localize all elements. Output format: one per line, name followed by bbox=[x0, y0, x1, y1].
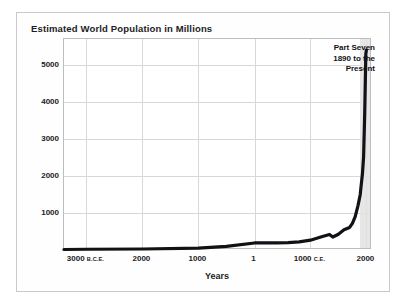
x-axis-tick-label: 1000 C.E. bbox=[294, 254, 325, 263]
y-axis-tick-label: 4000 bbox=[41, 96, 59, 105]
callout-line-1: Part Seven bbox=[283, 43, 375, 54]
x-axis-tick-label: 2000 bbox=[356, 254, 374, 263]
y-axis-tick-label: 2000 bbox=[41, 171, 59, 180]
y-axis-tick-label: 5000 bbox=[41, 59, 59, 68]
x-axis-tick-label: 1000 bbox=[188, 254, 206, 263]
chart-title: Estimated World Population in Millions bbox=[31, 23, 212, 34]
x-axis-title: Years bbox=[63, 271, 371, 281]
y-axis-tick-label: 1000 bbox=[41, 208, 59, 217]
y-axis-tick-labels: 10002000300040005000 bbox=[17, 38, 59, 249]
x-axis-tick-labels: 3000 B.C.E.2000100011000 C.E.2000 bbox=[63, 254, 371, 268]
callout-line-3: Present bbox=[283, 64, 375, 75]
x-axis-tick-label: 3000 B.C.E. bbox=[67, 254, 104, 263]
chart-figure: Estimated World Population in Millions 1… bbox=[16, 12, 390, 292]
callout-annotation: Part Seven 1890 to the Present bbox=[283, 43, 375, 75]
x-axis-tick-label: 1 bbox=[251, 254, 255, 263]
y-axis-tick-label: 3000 bbox=[41, 133, 59, 142]
callout-line-2: 1890 to the bbox=[283, 54, 375, 65]
x-axis-tick-label: 2000 bbox=[132, 254, 150, 263]
